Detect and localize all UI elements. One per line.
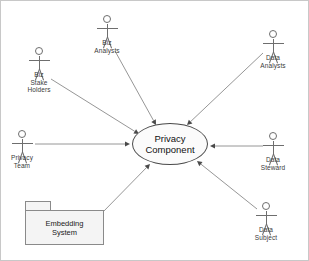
actor-label-line1: Data	[251, 54, 295, 62]
actor-biz-analysts[interactable]: BizAnalysts	[85, 15, 129, 54]
actor-data-analysts[interactable]: DataAnalysts	[251, 30, 295, 69]
connection-data-subject-arrowhead	[197, 161, 203, 166]
usecase-label-line2: Component	[145, 144, 194, 155]
actor-label-line2: Analysts	[85, 47, 129, 55]
actor-label-line2: Steward	[251, 164, 295, 172]
actor-label: PrivacyTeam	[0, 154, 44, 169]
actor-data-steward[interactable]: DataSteward	[251, 132, 295, 171]
actor-label-line2: Stake	[17, 79, 61, 87]
connection-embedding-system-arrowhead	[145, 164, 150, 169]
connection-biz-analysts	[115, 51, 154, 121]
component-embedding-system[interactable]: Embedding System	[25, 201, 104, 245]
actor-privacy-team[interactable]: PrivacyTeam	[0, 130, 44, 169]
actor-head-part	[35, 47, 43, 55]
connection-biz-stake-holders	[51, 79, 135, 131]
connection-privacy-team-arrowhead	[125, 141, 130, 146]
actor-label-line2: Team	[0, 162, 44, 170]
use-case-diagram: Privacy Component Embedding System BizSt…	[0, 0, 309, 261]
package-label-line1: Embedding	[46, 219, 84, 228]
actor-label: BizAnalysts	[85, 39, 129, 54]
connection-data-analysts-arrowhead	[187, 120, 192, 125]
connection-data-steward-arrowhead	[210, 143, 215, 148]
actor-label-line1: Data	[251, 156, 295, 164]
package-body: Embedding System	[25, 210, 104, 245]
actor-label-line2: Analysts	[251, 62, 295, 70]
actor-label-line1: Privacy	[0, 154, 44, 162]
actor-label-line2: Subject	[244, 234, 288, 242]
package-tab	[25, 201, 51, 210]
actor-head-part	[262, 202, 270, 210]
actor-label-line1: Data	[244, 226, 288, 234]
actor-label-line1: Biz	[85, 39, 129, 47]
actor-data-subject[interactable]: DataSubject	[244, 202, 288, 241]
usecase-privacy-component[interactable]: Privacy Component	[132, 123, 208, 165]
package-label-line2: System	[52, 228, 77, 237]
actor-label-line1: Biz	[17, 71, 61, 79]
actor-head-part	[269, 132, 277, 140]
actor-head-part	[269, 30, 277, 38]
actor-label: BizStakeHolders	[17, 71, 61, 94]
actor-biz-stake-holders[interactable]: BizStakeHolders	[17, 47, 61, 94]
actor-label: DataAnalysts	[251, 54, 295, 69]
actor-label-line3: Holders	[17, 86, 61, 94]
actor-label: DataSubject	[244, 226, 288, 241]
actor-label: DataSteward	[251, 156, 295, 171]
actor-head-part	[103, 15, 111, 23]
actor-head-part	[18, 130, 26, 138]
connection-embedding-system	[102, 168, 147, 213]
usecase-label-line1: Privacy	[154, 133, 185, 144]
